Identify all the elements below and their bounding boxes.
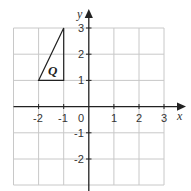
y-tick-label: -1 <box>74 127 84 139</box>
y-tick-label: 3 <box>78 22 84 34</box>
x-axis-label: x <box>176 109 183 123</box>
x-tick-label: 3 <box>161 112 167 124</box>
y-tick-label: 1 <box>78 74 84 86</box>
x-tick-label: 1 <box>111 112 117 124</box>
x-tick-label: -1 <box>58 112 68 124</box>
triangle-q-label: Q <box>48 63 58 78</box>
y-tick-label: -2 <box>74 153 84 165</box>
y-axis-arrow-icon <box>85 9 93 18</box>
y-axis-label: y <box>76 7 83 21</box>
x-tick-label: 2 <box>136 112 142 124</box>
coordinate-plane: -2 -1 0 1 2 3 3 2 1 -1 -2 x y Q <box>0 0 191 191</box>
x-tick-label: -2 <box>33 112 43 124</box>
y-tick-label: 2 <box>78 48 84 60</box>
origin-label: 0 <box>78 112 84 124</box>
tick-marks <box>39 28 164 159</box>
